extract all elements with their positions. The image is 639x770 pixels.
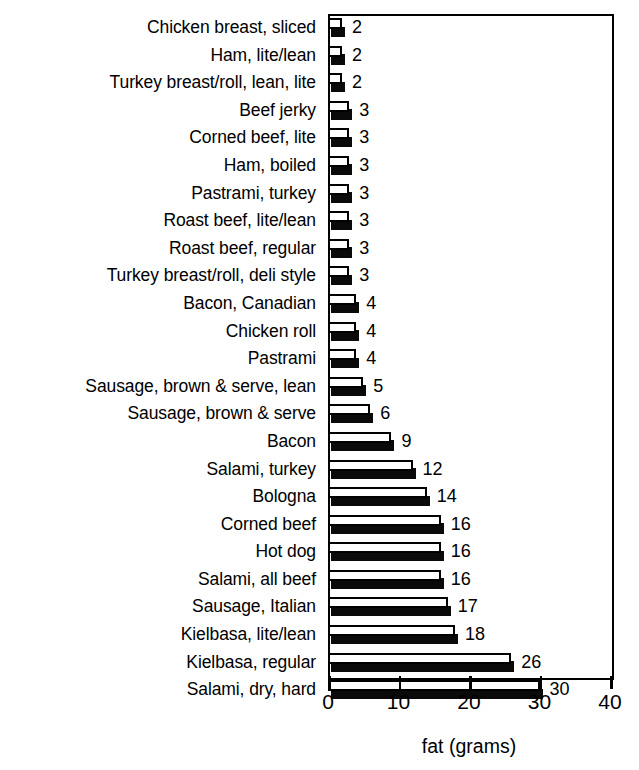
bar [328,570,441,581]
bar [328,46,342,57]
bar-value-label: 9 [401,429,411,453]
bar-row: 16 [328,538,610,566]
bar-value-label: 18 [465,622,485,646]
bar-row: 4 [328,345,610,373]
bar-value-label: 2 [352,15,362,39]
bar-row: 3 [328,152,610,180]
bar-value-label: 3 [359,98,369,122]
bar-value-label: 4 [366,291,376,315]
x-tick-label: 20 [446,690,492,714]
bar [328,322,356,333]
bar [328,460,413,471]
x-tick [540,676,543,689]
x-tick-label: 10 [376,690,422,714]
bar-value-label: 3 [359,125,369,149]
category-label: Corned beef [0,511,322,539]
category-label: Corned beef, lite [0,124,322,152]
category-label: Salami, all beef [0,566,322,594]
bar-row: 3 [328,207,610,235]
category-label: Bacon, Canadian [0,290,322,318]
bar-value-label: 4 [366,346,376,370]
bar-value-label: 26 [521,650,541,674]
x-tick [610,676,613,689]
category-label: Hot dog [0,538,322,566]
bar [328,542,441,553]
category-label: Sausage, Italian [0,593,322,621]
bar-row: 17 [328,593,610,621]
bar-value-label: 17 [458,594,478,618]
x-tick-label: 40 [587,690,633,714]
bar-value-label: 3 [359,208,369,232]
category-label: Chicken roll [0,318,322,346]
category-label: Turkey breast/roll, lean, lite [0,69,322,97]
category-label: Salami, turkey [0,456,322,484]
category-label: Pastrami, turkey [0,180,322,208]
category-label: Roast beef, lite/lean [0,207,322,235]
x-axis-title: fat (grams) [328,735,610,758]
bar-row: 26 [328,649,610,677]
x-tick-label: 0 [305,690,351,714]
x-tick [469,676,472,689]
bar-row: 3 [328,124,610,152]
bar [328,487,427,498]
bar [328,239,349,250]
category-label: Sausage, brown & serve, lean [0,373,322,401]
category-label: Beef jerky [0,97,322,125]
category-label: Ham, lite/lean [0,42,322,70]
category-label: Salami, dry, hard [0,676,322,704]
bar-row: 9 [328,428,610,456]
bar [328,101,349,112]
bar-row: 16 [328,566,610,594]
bar-value-label: 16 [451,539,471,563]
category-label: Kielbasa, regular [0,649,322,677]
bar [328,404,370,415]
bar-row: 2 [328,14,610,42]
bar [328,266,349,277]
category-label: Ham, boiled [0,152,322,180]
bar-row: 4 [328,318,610,346]
fat-grams-bar-chart: Chicken breast, slicedHam, lite/leanTurk… [0,0,639,770]
bar-row: 14 [328,483,610,511]
x-tick [399,676,402,689]
category-label: Turkey breast/roll, deli style [0,262,322,290]
category-label: Bacon [0,428,322,456]
bar [328,294,356,305]
category-label: Pastrami [0,345,322,373]
bar [328,156,349,167]
x-tick-label: 30 [517,690,563,714]
bar-value-label: 6 [380,401,390,425]
bar [328,377,363,388]
bar [328,597,448,608]
bar [328,349,356,360]
category-axis-labels: Chicken breast, slicedHam, lite/leanTurk… [0,14,322,704]
category-label: Bologna [0,483,322,511]
bar-series: 2223333333444569121416161617182630 [328,14,610,676]
bar-value-label: 2 [352,43,362,67]
bar-value-label: 2 [352,70,362,94]
bar-value-label: 16 [451,567,471,591]
bar [328,625,455,636]
bar-value-label: 4 [366,319,376,343]
bar-row: 18 [328,621,610,649]
bar-value-label: 14 [437,484,457,508]
bar-value-label: 3 [359,181,369,205]
category-label: Kielbasa, lite/lean [0,621,322,649]
category-label: Roast beef, regular [0,235,322,263]
bar-value-label: 3 [359,153,369,177]
bar [328,653,511,664]
bar-value-label: 3 [359,263,369,287]
bar [328,73,342,84]
category-label: Chicken breast, sliced [0,14,322,42]
bar-value-label: 16 [451,512,471,536]
bar-row: 3 [328,180,610,208]
x-tick [328,676,331,689]
bar [328,18,342,29]
bar [328,432,391,443]
bar-row: 12 [328,456,610,484]
bar-row: 4 [328,290,610,318]
category-label: Sausage, brown & serve [0,400,322,428]
bar-row: 6 [328,400,610,428]
bar-row: 3 [328,97,610,125]
bar-row: 3 [328,235,610,263]
bar-value-label: 3 [359,236,369,260]
